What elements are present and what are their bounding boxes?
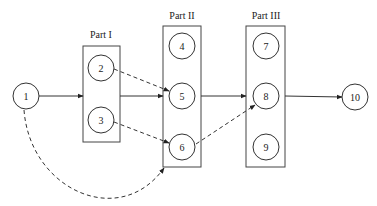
svg-text:10: 10 [350, 92, 360, 103]
svg-text:8: 8 [264, 91, 269, 102]
node-1: 1 [13, 83, 39, 109]
edge-8-to-10 [285, 96, 342, 97]
node-8: 8 [253, 83, 279, 109]
node-2: 2 [88, 55, 114, 81]
part-1-label: Part I [90, 29, 112, 40]
node-3: 3 [88, 107, 114, 133]
svg-text:5: 5 [180, 91, 185, 102]
part-3-label: Part III [252, 10, 281, 21]
svg-text:4: 4 [180, 41, 185, 52]
part-2-label: Part II [169, 10, 194, 21]
flow-diagram: Part I Part II Part III 1 2 3 4 5 6 7 8 … [0, 0, 377, 206]
svg-text:9: 9 [264, 142, 269, 153]
node-4: 4 [169, 33, 195, 59]
node-5: 5 [169, 83, 195, 109]
node-9: 9 [253, 134, 279, 160]
node-6: 6 [169, 134, 195, 160]
edge-3-to-6 [114, 122, 169, 143]
svg-text:2: 2 [99, 63, 104, 74]
svg-text:7: 7 [264, 41, 269, 52]
svg-text:1: 1 [24, 91, 29, 102]
node-7: 7 [253, 33, 279, 59]
svg-text:6: 6 [180, 142, 185, 153]
edge-2-to-5 [114, 69, 169, 91]
node-10: 10 [342, 84, 368, 110]
svg-text:3: 3 [99, 115, 104, 126]
